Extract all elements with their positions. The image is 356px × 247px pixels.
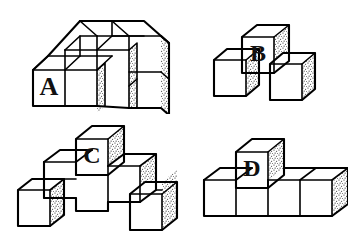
- figure-d[interactable]: D: [198, 134, 348, 234]
- figure-a[interactable]: A: [28, 14, 172, 114]
- figure-c[interactable]: C: [14, 122, 194, 238]
- figure-b-label: B: [250, 40, 266, 66]
- figure-c-label: C: [83, 142, 100, 168]
- figure-a-label: A: [40, 72, 59, 101]
- figure-d-cubes: [204, 139, 348, 216]
- figures-sheet: A: [0, 0, 356, 247]
- figure-d-label: D: [243, 155, 260, 181]
- figure-b[interactable]: B: [212, 22, 324, 112]
